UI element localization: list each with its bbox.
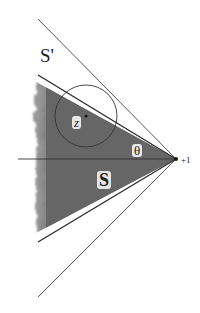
- point-z: [84, 114, 87, 117]
- label-s-prime: S': [40, 46, 54, 65]
- label-theta: θ: [132, 144, 142, 157]
- point-plus-one: [174, 157, 178, 161]
- stolz-angle-diagram: S' z θ S +1: [0, 0, 200, 313]
- diagram-canvas: [0, 0, 200, 313]
- label-s: S: [97, 171, 111, 189]
- region-s: [36, 60, 176, 256]
- label-plus-one: +1: [181, 156, 191, 165]
- label-z: z: [72, 116, 81, 129]
